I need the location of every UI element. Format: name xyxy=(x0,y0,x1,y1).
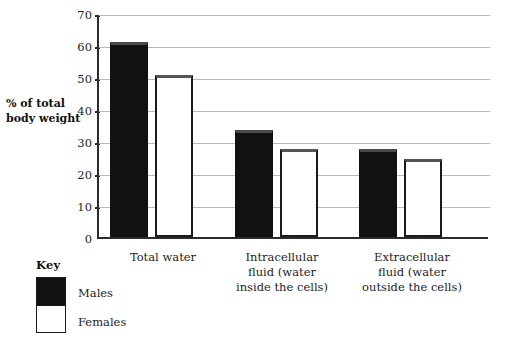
cat1-line3: inside the cells) xyxy=(226,280,338,295)
bar-males-extracellular xyxy=(359,149,397,237)
y-axis-tick-labels: 70 60 50 40 30 20 10 0 xyxy=(52,0,92,239)
legend-label-males: Males xyxy=(78,286,113,300)
legend-swatch-box xyxy=(36,277,66,333)
bar-females-intracellular xyxy=(280,149,318,237)
bar-males-intracellular xyxy=(235,130,273,237)
cat2-line3: outside the cells) xyxy=(352,280,472,295)
y-tick-50: 50 xyxy=(58,74,92,86)
y-tick-60: 60 xyxy=(58,42,92,54)
x-category-label-intracellular: Intracellular fluid (water inside the ce… xyxy=(226,250,338,296)
y-tick-0: 0 xyxy=(58,234,92,246)
legend-title: Key xyxy=(36,258,156,272)
legend-label-females: Females xyxy=(78,315,126,329)
cat1-line2: fluid (water xyxy=(226,265,338,280)
bar-females-extracellular xyxy=(404,159,442,237)
bar-females-total-water xyxy=(155,75,193,237)
y-tick-40: 40 xyxy=(58,106,92,118)
y-tick-10: 10 xyxy=(58,202,92,214)
legend-swatch-females-icon xyxy=(37,305,65,332)
plot-area xyxy=(97,15,488,239)
bar-males-total-water xyxy=(110,42,148,237)
cat2-line1: Extracellular xyxy=(352,250,472,265)
y-tick-30: 30 xyxy=(58,138,92,150)
legend: Key Males Females xyxy=(36,258,156,276)
y-tick-70: 70 xyxy=(58,10,92,22)
cat2-line2: fluid (water xyxy=(352,265,472,280)
legend-swatch-males-icon xyxy=(37,278,65,305)
gridline-60 xyxy=(99,47,490,48)
gridline-70 xyxy=(99,15,490,16)
x-category-label-extracellular: Extracellular fluid (water outside the c… xyxy=(352,250,472,296)
bar-chart: % of total body weight 70 60 50 40 30 20… xyxy=(0,0,513,342)
cat1-line1: Intracellular xyxy=(226,250,338,265)
y-tick-20: 20 xyxy=(58,170,92,182)
